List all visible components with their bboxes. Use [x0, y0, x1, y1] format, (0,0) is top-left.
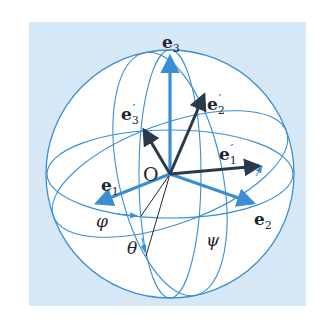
label-origin: O — [143, 163, 159, 185]
label-phi: φ — [96, 211, 108, 231]
label-e3: e3 — [162, 32, 180, 55]
label-theta: θ — [127, 238, 137, 258]
euler-angle-diagram: O e3 e3′ e2′ e1′ e1 e2 φ θ ψ — [0, 0, 327, 329]
label-psi: ψ — [206, 230, 220, 250]
